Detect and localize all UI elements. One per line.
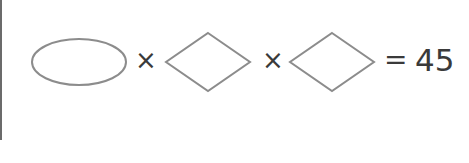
equation-shapes	[0, 0, 469, 163]
blank-diamond-term-3	[290, 33, 374, 91]
blank-diamond-term-2	[166, 33, 250, 91]
equation-result: 45	[415, 45, 454, 76]
multiply-operator-1: ×	[135, 47, 157, 73]
blank-ellipse-term-1	[32, 39, 126, 85]
equals-sign: =	[384, 46, 407, 74]
multiply-operator-2: ×	[262, 47, 284, 73]
